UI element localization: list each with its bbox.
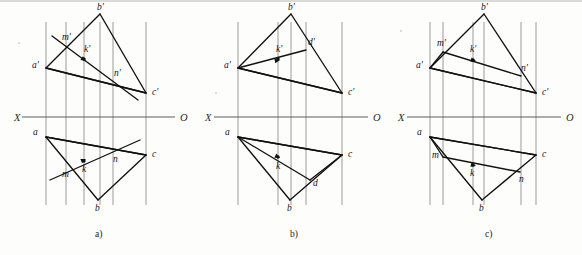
triangle-edge-horizontal-view [482, 155, 536, 200]
vertex-label-c: c [542, 149, 547, 159]
point-marker-dot [276, 57, 279, 60]
axis-label-o: O [180, 112, 188, 123]
vertex-label-b-prime: b' [97, 2, 105, 12]
vertex-label-b: b [287, 203, 292, 213]
auxiliary-line-horizontal-view [430, 137, 536, 155]
axis-label-x: X [13, 112, 21, 123]
figure-group-c: XOb'a'c'm'k'n'bacmknc) [397, 2, 574, 240]
vertex-label-m-prime: m' [437, 38, 447, 48]
figure-group-b: XOb'a'c'd'k'bacdkb) [204, 2, 381, 240]
vertex-label-c-prime: c' [152, 87, 159, 97]
vertex-label-m-prime: m' [62, 32, 72, 42]
auxiliary-line-horizontal-view [443, 157, 520, 172]
vertex-label-m: m [62, 169, 69, 179]
vertex-label-k: k [82, 164, 87, 174]
point-marker-dot [471, 163, 474, 166]
vertex-label-c-prime: c' [348, 87, 355, 97]
axis-label-o: O [566, 112, 574, 123]
point-marker-dot [82, 57, 85, 60]
vertex-label-b: b [479, 203, 484, 213]
triangle-edge-frontal-view [46, 14, 100, 68]
vertex-label-n: n [113, 154, 118, 164]
auxiliary-line-frontal-view [238, 68, 342, 93]
vertex-label-n: n [519, 174, 524, 184]
point-marker-dot [471, 58, 474, 61]
axis-label-o: O [373, 112, 381, 123]
auxiliary-line-frontal-view [46, 68, 146, 93]
figure-caption-a: a) [95, 229, 102, 240]
vertex-label-d: d [313, 178, 318, 188]
vertex-label-c: c [348, 149, 353, 159]
vertex-label-a: a [225, 127, 230, 137]
triangle-edge-frontal-view [238, 14, 291, 68]
mn-line-frontal-view [52, 36, 138, 100]
vertex-label-a: a [417, 127, 422, 137]
vertex-label-a: a [33, 127, 38, 137]
axis-label-x: X [397, 112, 405, 123]
point-marker-dot [276, 155, 279, 158]
extra-line-frontal-view [430, 52, 443, 68]
vertex-label-b: b [95, 203, 100, 213]
vertex-label-k-prime: k' [84, 44, 91, 54]
vertex-label-c: c [152, 149, 157, 159]
figure-group-a: XOb'a'c'm'k'n'bacmkna) [13, 2, 188, 240]
triangle-edge-horizontal-view [238, 137, 290, 200]
figure-sheet: XOb'a'c'm'k'n'bacmkna)XOb'a'c'd'k'bacdkb… [0, 0, 582, 255]
triangle-edge-horizontal-view [46, 137, 98, 200]
vertex-label-b-prime: b' [481, 2, 489, 12]
projection-drawing-canvas: XOb'a'c'm'k'n'bacmkna)XOb'a'c'd'k'bacdkb… [0, 0, 582, 255]
vertex-label-d-prime: d' [308, 37, 316, 47]
extra-line-horizontal-view [310, 155, 342, 180]
vertex-label-a-prime: a' [32, 60, 40, 70]
auxiliary-line-horizontal-view [46, 137, 146, 155]
point-marker-dot [82, 159, 85, 162]
triangle-edge-frontal-view [291, 14, 342, 93]
vertex-label-k: k [470, 168, 475, 178]
triangle-edge-horizontal-view [98, 155, 146, 200]
figure-caption-c: c) [485, 229, 492, 240]
vertex-label-b-prime: b' [288, 2, 296, 12]
vertex-label-m: m [432, 150, 439, 160]
vertex-label-k-prime: k' [470, 44, 477, 54]
axis-label-x: X [204, 112, 212, 123]
vertex-label-n-prime: n' [114, 68, 122, 78]
triangle-edge-frontal-view [100, 14, 146, 93]
vertex-label-n-prime: n' [521, 63, 529, 73]
vertex-label-k-prime: k' [276, 44, 283, 54]
vertex-label-a-prime: a' [416, 60, 424, 70]
vertex-label-a-prime: a' [224, 60, 232, 70]
auxiliary-line-frontal-view [238, 50, 306, 68]
triangle-edge-frontal-view [484, 14, 536, 93]
figure-caption-b: b) [290, 229, 298, 240]
vertex-label-c-prime: c' [542, 87, 549, 97]
auxiliary-line-frontal-view [443, 52, 521, 76]
